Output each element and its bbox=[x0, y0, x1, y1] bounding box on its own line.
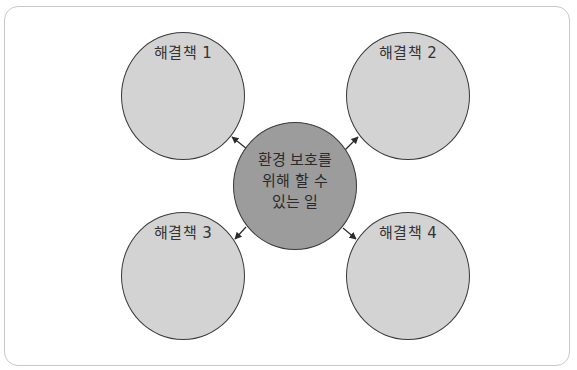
solution-node-3: 해결책 3 bbox=[121, 212, 245, 340]
solution-label-1: 해결책 1 bbox=[122, 41, 244, 62]
solution-node-1: 해결책 1 bbox=[121, 32, 245, 160]
central-topic-label: 환경 보호를 위해 할 수 있는 일 bbox=[258, 150, 333, 213]
solution-label-4: 해결책 4 bbox=[347, 221, 469, 242]
solution-label-2: 해결책 2 bbox=[347, 41, 469, 62]
solution-label-3: 해결책 3 bbox=[122, 221, 244, 242]
solution-node-2: 해결책 2 bbox=[346, 32, 470, 160]
solution-node-4: 해결책 4 bbox=[346, 212, 470, 340]
central-topic-node: 환경 보호를 위해 할 수 있는 일 bbox=[233, 122, 357, 250]
